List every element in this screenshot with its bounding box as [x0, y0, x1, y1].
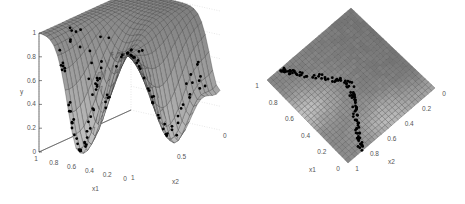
- data-point: [324, 77, 327, 80]
- data-point: [90, 62, 93, 65]
- data-point: [281, 70, 284, 73]
- x2-tick-label: 0.6: [387, 135, 396, 142]
- data-point: [175, 134, 178, 137]
- x1-tick-label: 1: [34, 155, 38, 162]
- data-point: [287, 70, 290, 73]
- data-point: [76, 142, 79, 145]
- data-point: [138, 65, 141, 68]
- figure: 00.20.40.60.81 10.80.60.40.20 10.50 y x1…: [0, 0, 465, 204]
- data-point: [62, 65, 65, 68]
- data-point: [354, 110, 357, 113]
- data-point: [197, 61, 200, 64]
- z-tick-label: 0.8: [27, 53, 36, 60]
- data-point: [104, 106, 107, 109]
- data-point: [352, 112, 355, 115]
- data-point: [61, 68, 64, 71]
- data-point: [165, 134, 168, 137]
- data-point: [353, 98, 356, 101]
- data-point: [63, 67, 66, 70]
- data-point: [353, 85, 356, 88]
- data-point: [104, 101, 107, 104]
- data-point: [162, 127, 165, 130]
- data-point: [355, 127, 358, 130]
- data-point: [199, 75, 202, 78]
- data-point: [99, 35, 102, 38]
- data-point: [361, 149, 364, 152]
- data-point: [180, 107, 183, 110]
- data-point: [79, 28, 82, 31]
- data-point: [344, 80, 347, 83]
- data-point: [296, 73, 299, 76]
- data-point: [94, 82, 97, 85]
- data-point: [135, 61, 138, 64]
- data-point: [320, 77, 323, 80]
- data-point: [331, 76, 334, 79]
- x1-tick-label: 0.2: [317, 148, 326, 155]
- data-point: [349, 91, 352, 94]
- data-point: [67, 104, 70, 107]
- data-point: [58, 49, 61, 52]
- data-point: [98, 77, 101, 80]
- z-tick-label: 1: [32, 29, 36, 36]
- data-point: [356, 114, 359, 117]
- data-point: [321, 73, 324, 76]
- data-point: [100, 60, 103, 63]
- x1-tick-label: 0.8: [49, 159, 58, 166]
- data-point: [71, 121, 74, 124]
- data-point: [185, 82, 188, 85]
- data-point: [177, 115, 180, 118]
- surface: [39, 0, 220, 153]
- data-point: [171, 125, 174, 128]
- data-point: [121, 54, 124, 57]
- data-point: [358, 132, 361, 135]
- x2-tick-label: 0: [442, 90, 446, 97]
- data-point: [355, 132, 358, 135]
- x1-tick-label: 1: [255, 82, 259, 89]
- data-point: [69, 101, 72, 104]
- data-point: [87, 77, 90, 80]
- data-point: [331, 80, 334, 83]
- data-point: [352, 115, 355, 118]
- data-point: [177, 122, 180, 125]
- data-point: [198, 87, 201, 90]
- data-point: [70, 29, 73, 32]
- data-point: [152, 95, 155, 98]
- data-point: [189, 73, 192, 76]
- data-point: [191, 81, 194, 84]
- data-point: [354, 119, 357, 122]
- data-point: [188, 96, 191, 99]
- x2-tick-label: 0: [223, 132, 227, 139]
- data-point: [62, 62, 65, 65]
- x1-tick-label: 0: [336, 165, 340, 172]
- data-point: [351, 106, 354, 109]
- data-point: [64, 70, 67, 73]
- data-point: [358, 138, 361, 141]
- z-tick-label: 0: [32, 148, 36, 155]
- data-point: [89, 50, 92, 53]
- data-point: [182, 103, 185, 106]
- data-point: [284, 68, 287, 71]
- data-point: [345, 83, 348, 86]
- data-point: [141, 49, 144, 52]
- data-point: [126, 52, 129, 55]
- x2-tick-label: 1: [355, 165, 359, 172]
- data-point: [336, 78, 339, 81]
- data-point: [138, 50, 141, 53]
- x1-tick-label: 0.6: [285, 115, 294, 122]
- x1-tick-label: 0.8: [269, 99, 278, 106]
- x1-tick-label: 0.4: [301, 132, 310, 139]
- data-point: [158, 117, 161, 120]
- data-point: [132, 56, 135, 59]
- data-point: [198, 79, 201, 82]
- data-point: [303, 76, 306, 79]
- data-point: [71, 127, 74, 130]
- data-point: [91, 93, 94, 96]
- data-point: [311, 76, 314, 79]
- z-tick-labels: 00.20.40.60.81: [27, 29, 42, 155]
- data-point: [306, 75, 309, 78]
- data-point: [92, 109, 95, 112]
- x1-tick-label: 0.2: [103, 171, 112, 178]
- data-point: [318, 73, 321, 76]
- data-point: [115, 65, 118, 68]
- data-point: [339, 79, 342, 82]
